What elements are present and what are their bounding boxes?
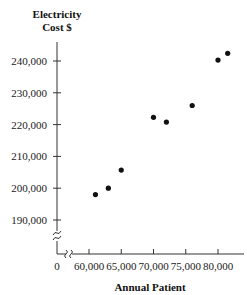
y-axis-break-icon — [53, 231, 61, 240]
x-tick-label: 80,000 — [203, 260, 234, 272]
x-axis-break-icon — [65, 250, 73, 258]
origin-label: 0 — [54, 260, 60, 272]
data-point — [164, 119, 169, 124]
y-axis-ticks: 190,000200,000210,000220,000230,000240,0… — [11, 55, 61, 226]
y-tick-label: 220,000 — [11, 119, 47, 131]
y-tick-label: 240,000 — [11, 55, 47, 67]
data-point — [119, 167, 124, 172]
data-points — [93, 51, 230, 197]
axes: 0 — [53, 42, 244, 272]
x-tick-label: 65,000 — [106, 260, 137, 272]
scatter-plot: 0 190,000200,000210,000220,000230,000240… — [0, 0, 247, 295]
x-axis-ticks: 60,00065,00070,00075,00080,000 — [74, 249, 234, 272]
data-point — [151, 115, 156, 120]
x-tick-label: 60,000 — [74, 260, 105, 272]
data-point — [215, 57, 220, 62]
y-tick-label: 190,000 — [11, 214, 47, 226]
data-point — [190, 103, 195, 108]
data-point — [106, 186, 111, 191]
y-tick-label: 210,000 — [11, 150, 47, 162]
data-point — [93, 192, 98, 197]
y-tick-label: 230,000 — [11, 87, 47, 99]
data-point — [225, 51, 230, 56]
x-tick-label: 70,000 — [138, 260, 169, 272]
x-tick-label: 75,000 — [171, 260, 202, 272]
y-tick-label: 200,000 — [11, 182, 47, 194]
